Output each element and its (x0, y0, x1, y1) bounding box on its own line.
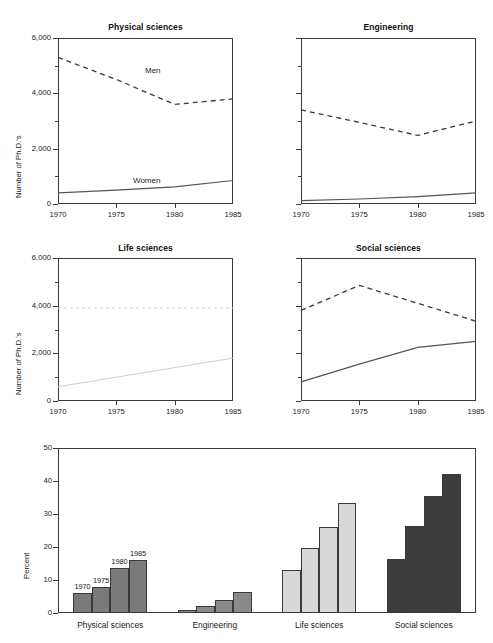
bar-panel: 01020304050Percent1970197519801985Physic… (0, 0, 493, 643)
bar-y-tick-label: 20 (28, 542, 52, 551)
bar-life-sciences-1970 (282, 570, 301, 613)
bar-social-sciences-1975 (405, 526, 424, 613)
bar-engineering-1975 (196, 606, 215, 613)
bar-physical-sciences-1970 (73, 593, 92, 613)
bar-physical-sciences-1985 (129, 560, 148, 613)
bar-category-label: Life sciences (267, 620, 372, 630)
bar-year-label: 1985 (125, 549, 152, 558)
bar-engineering-1970 (178, 610, 197, 613)
bar-life-sciences-1985 (338, 503, 357, 613)
bar-y-axis-label: Percent (22, 553, 31, 580)
bar-social-sciences-1980 (424, 496, 443, 613)
bar-y-tick-mark (53, 448, 58, 449)
bar-y-tick-mark (53, 547, 58, 548)
bar-y-tick-mark (53, 580, 58, 581)
bar-y-tick-mark (53, 514, 58, 515)
bar-y-tick-label: 0 (28, 608, 52, 617)
bar-y-tick-mark (53, 613, 58, 614)
bar-engineering-1985 (233, 592, 252, 613)
bar-life-sciences-1980 (319, 527, 338, 613)
bar-y-tick-label: 40 (28, 476, 52, 485)
bar-life-sciences-1975 (301, 548, 320, 613)
bar-category-label: Physical sciences (58, 620, 163, 630)
bar-physical-sciences-1980 (110, 568, 129, 613)
bar-y-tick-label: 30 (28, 509, 52, 518)
bar-category-label: Social sciences (372, 620, 477, 630)
bar-social-sciences-1970 (387, 559, 406, 613)
bar-physical-sciences-1975 (92, 587, 111, 613)
bar-social-sciences-1985 (442, 474, 461, 613)
bar-y-tick-label: 50 (28, 443, 52, 452)
bar-engineering-1980 (215, 600, 234, 613)
bar-y-tick-label: 10 (28, 575, 52, 584)
bar-category-label: Engineering (163, 620, 268, 630)
bar-y-tick-mark (53, 481, 58, 482)
